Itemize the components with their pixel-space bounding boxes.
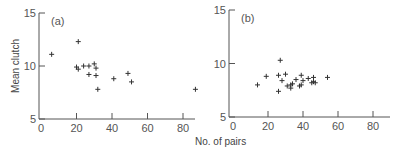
panel-label: (b) [241,12,254,24]
x-tick-label: 60 [141,122,153,134]
plus-marker [94,73,99,78]
y-axis-label: Mean clutch [10,39,21,93]
chart-canvas: 51015020406080(a)51015020406080(b)Mean c… [0,0,395,153]
plus-marker [276,73,281,78]
x-tick-label: 0 [230,120,236,132]
plus-marker [49,52,54,57]
plus-marker [283,72,288,77]
panel-label: (a) [51,15,64,27]
y-tick-label: 15 [24,7,36,19]
scatter-panel-a: 51015020406080(a) [24,7,198,134]
x-tick-label: 20 [70,122,82,134]
plus-marker [111,76,116,81]
y-tick-label: 10 [24,60,36,72]
x-tick-label: 80 [367,120,379,132]
plus-marker [86,64,91,69]
x-tick-label: 40 [297,120,309,132]
x-tick-label: 60 [332,120,344,132]
plus-marker [276,89,281,94]
plus-marker [306,76,311,81]
y-tick-label: 5 [220,111,226,123]
plus-marker [301,78,306,83]
y-tick-label: 10 [214,58,226,70]
plus-marker [255,82,260,87]
x-tick-label: 80 [177,122,189,134]
y-tick-label: 15 [214,4,226,16]
plus-marker [264,74,269,79]
plus-marker [278,58,283,63]
plus-marker [193,87,198,92]
plus-marker [76,39,81,44]
plus-marker [129,79,134,84]
x-tick-label: 40 [106,122,118,134]
plus-marker [125,71,130,76]
x-tick-label: 0 [38,122,44,134]
plus-marker [81,64,86,69]
x-tick-label: 20 [262,120,274,132]
plus-marker [294,77,299,82]
plus-marker [325,75,330,80]
x-axis-label: No. of pairs [195,136,246,147]
scatter-panel-b: 51015020406080(b) [214,4,390,132]
plus-marker [95,87,100,92]
y-tick-label: 5 [30,113,36,125]
plus-marker [299,73,304,78]
plus-marker [280,78,285,83]
plus-marker [86,72,91,77]
plus-marker [311,75,316,80]
